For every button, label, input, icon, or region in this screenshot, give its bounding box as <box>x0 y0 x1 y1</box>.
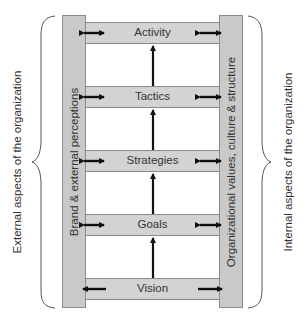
strategy-framework-diagram: Brand & external perceptions Organizatio… <box>0 0 306 320</box>
right-double-arrows <box>198 33 222 289</box>
right-brace-label: Internal aspects of the organization <box>282 72 294 251</box>
right-brace-icon <box>248 16 271 308</box>
left-brace-label: External aspects of the organization <box>11 71 23 254</box>
left-brace-icon <box>32 16 55 308</box>
arrows-layer <box>0 0 306 320</box>
left-double-arrows <box>83 33 106 289</box>
